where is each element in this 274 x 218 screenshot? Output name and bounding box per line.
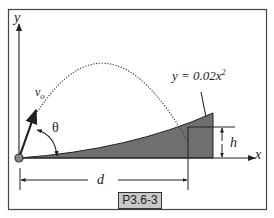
velocity-vector (19, 110, 36, 158)
projectile-diagram (0, 0, 274, 218)
distance-label: d (97, 173, 104, 187)
equation-label: y = 0.02x2 (172, 69, 226, 82)
origin-point (15, 154, 23, 162)
equation-text: y = 0.02x (172, 68, 222, 83)
equation-exponent: 2 (222, 68, 226, 77)
y-axis-label: y (14, 11, 20, 25)
velocity-label: vo (35, 86, 45, 101)
angle-label: θ (52, 121, 59, 135)
x-axis-label: x (255, 148, 261, 162)
velocity-subscript: o (40, 91, 45, 101)
problem-id-badge: P3.6-3 (118, 192, 162, 209)
equation-pointer (201, 92, 206, 117)
height-label: h (230, 136, 237, 150)
